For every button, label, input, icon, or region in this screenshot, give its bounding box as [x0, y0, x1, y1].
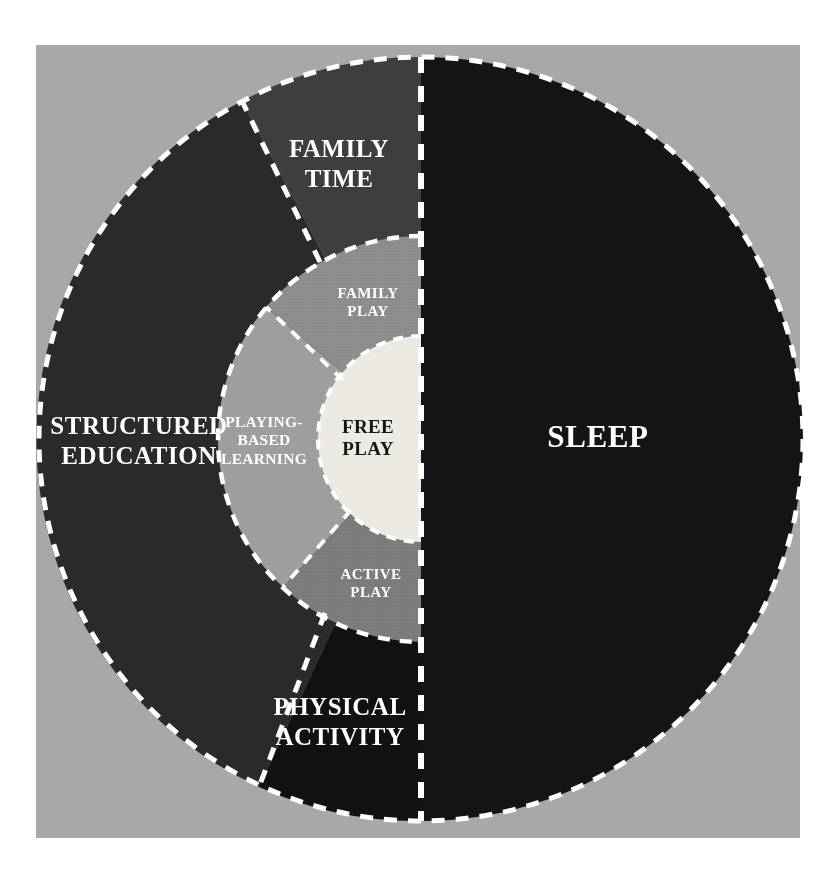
concentric-ring-diagram — [0, 0, 837, 876]
figure-canvas: SLEEP FAMILY TIME STRUCTURED EDUCATION P… — [0, 0, 837, 876]
